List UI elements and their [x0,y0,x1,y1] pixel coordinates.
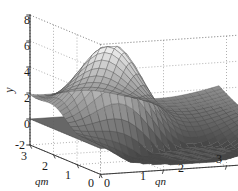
qn-tick-3: 3 [216,153,222,165]
y-tick-6: 6 [24,40,30,52]
y-axis-label: y [3,87,15,92]
qm-tick-1: 1 [65,169,71,181]
y-tick-8: 8 [24,14,30,26]
qn-tick-1: 1 [140,170,146,182]
y-tick-2: 2 [24,92,30,104]
y-tick-0: 0 [24,118,30,130]
qn-axis-label: qn [155,176,166,187]
qm-tick-0: 0 [88,177,94,189]
y-tick-4: 4 [24,66,30,78]
plot-canvas [0,0,238,191]
surface-plot-figure: 8 6 4 2 0 -2 y 3 2 1 0 0 1 2 3 qm qn [0,0,238,191]
qm-tick-2: 2 [42,160,48,172]
qn-tick-0: 0 [104,177,110,189]
qm-axis-label: qm [35,176,48,187]
qm-tick-3: 3 [21,150,27,162]
qn-tick-2: 2 [178,162,184,174]
